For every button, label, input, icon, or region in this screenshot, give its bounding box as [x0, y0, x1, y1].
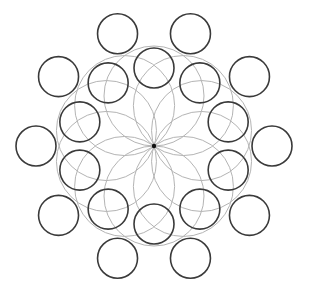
outer-circle — [98, 14, 138, 54]
petal-circle — [152, 111, 252, 211]
petal-circle — [152, 81, 252, 181]
petal-circle — [104, 146, 204, 246]
outer-circle — [16, 126, 56, 166]
diagram-canvas: Rosette circle pattern — [0, 0, 309, 295]
center-point — [152, 144, 156, 148]
inner-circle — [134, 204, 174, 244]
inner-circle — [60, 150, 100, 190]
petal-circle — [56, 111, 156, 211]
petal-circle — [104, 46, 204, 146]
inner-circle — [208, 102, 248, 142]
outer-circle — [252, 126, 292, 166]
inner-circle — [134, 48, 174, 88]
outer-circle — [39, 57, 79, 97]
outer-circle — [170, 14, 210, 54]
outer-circle — [229, 57, 269, 97]
outer-circle — [98, 238, 138, 278]
rosette-diagram — [0, 0, 309, 295]
outer-circle — [170, 238, 210, 278]
petal-circle — [56, 81, 156, 181]
outer-circle — [39, 195, 79, 235]
inner-circle — [60, 102, 100, 142]
inner-circle — [208, 150, 248, 190]
outer-circle — [229, 195, 269, 235]
